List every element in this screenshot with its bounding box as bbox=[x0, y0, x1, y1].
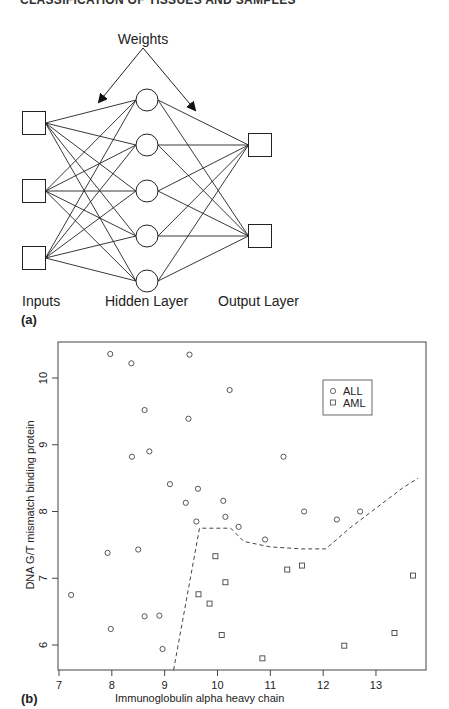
point-all bbox=[195, 486, 200, 491]
point-all bbox=[108, 351, 113, 356]
point-aml bbox=[219, 632, 224, 637]
point-all bbox=[183, 500, 188, 505]
decision-boundary bbox=[174, 478, 419, 670]
x-tick-label: 12 bbox=[317, 679, 329, 691]
point-aml bbox=[392, 630, 397, 635]
y-tick-label: 9 bbox=[37, 442, 49, 448]
point-all bbox=[69, 592, 74, 597]
point-aml bbox=[260, 656, 265, 661]
point-all bbox=[187, 352, 192, 357]
legend-aml-label: AML bbox=[343, 397, 366, 409]
point-aml bbox=[213, 554, 218, 559]
point-all bbox=[142, 407, 147, 412]
point-all bbox=[129, 454, 134, 459]
point-all bbox=[236, 524, 241, 529]
point-all bbox=[186, 416, 191, 421]
y-tick-label: 6 bbox=[37, 642, 49, 648]
point-all bbox=[157, 613, 162, 618]
point-all bbox=[147, 449, 152, 454]
point-all bbox=[223, 514, 228, 519]
y-axis: 678910 bbox=[37, 372, 58, 648]
x-tick-label: 13 bbox=[370, 679, 382, 691]
x-axis: 78910111213 bbox=[56, 670, 382, 691]
point-all bbox=[262, 537, 267, 542]
legend-all-label: ALL bbox=[343, 385, 363, 397]
scatter-plot: 78910111213 678910 ALL AML Immunoglobuli… bbox=[0, 0, 449, 709]
point-all bbox=[108, 626, 113, 631]
point-all bbox=[227, 387, 232, 392]
point-all bbox=[105, 550, 110, 555]
point-all bbox=[129, 361, 134, 366]
x-axis-label: Immunoglobulin alpha heavy chain bbox=[115, 692, 284, 704]
x-tick-label: 10 bbox=[211, 679, 223, 691]
point-all bbox=[136, 547, 141, 552]
point-all bbox=[167, 482, 172, 487]
point-aml bbox=[223, 580, 228, 585]
y-tick-label: 8 bbox=[37, 508, 49, 514]
point-aml bbox=[207, 601, 212, 606]
x-tick-label: 9 bbox=[162, 679, 168, 691]
point-all bbox=[281, 454, 286, 459]
x-tick-label: 7 bbox=[56, 679, 62, 691]
point-aml bbox=[285, 567, 290, 572]
point-aml bbox=[410, 573, 415, 578]
point-all bbox=[302, 509, 307, 514]
y-tick-label: 10 bbox=[37, 372, 49, 384]
point-aml bbox=[196, 592, 201, 597]
point-all bbox=[334, 517, 339, 522]
x-tick-label: 11 bbox=[265, 679, 276, 691]
point-aml bbox=[300, 563, 305, 568]
point-all bbox=[221, 498, 226, 503]
point-aml bbox=[342, 643, 347, 648]
point-all bbox=[142, 614, 147, 619]
legend: ALL AML bbox=[323, 380, 372, 415]
y-axis-label: DNA G/T mismatch binding protein bbox=[24, 420, 36, 589]
panel-b-label: (b) bbox=[21, 691, 38, 706]
y-tick-label: 7 bbox=[37, 575, 49, 581]
point-all bbox=[358, 509, 363, 514]
x-tick-label: 8 bbox=[109, 679, 115, 691]
point-all bbox=[194, 519, 199, 524]
point-all bbox=[160, 646, 165, 651]
